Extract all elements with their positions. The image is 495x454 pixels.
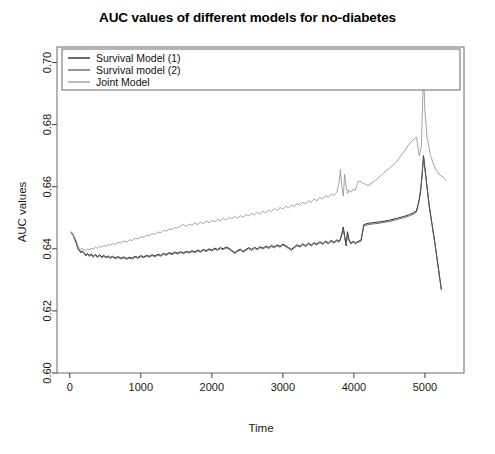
legend-item-label: Joint Model	[96, 76, 150, 88]
y-tick-label: 0.62	[41, 300, 53, 321]
y-tick-label: 0.60	[41, 362, 53, 383]
legend-item-label: Survival model (2)	[96, 64, 181, 76]
chart-legend[interactable]: Survival Model (1)Survival model (2)Join…	[62, 49, 460, 90]
series-lines	[71, 72, 446, 290]
x-tick-label: 3000	[271, 381, 295, 393]
series-line	[71, 157, 441, 290]
x-tick-label: 2000	[200, 381, 224, 393]
y-tick-label: 0.64	[41, 238, 53, 259]
y-axis-ticks: 0.600.620.640.660.680.70	[41, 52, 57, 384]
x-axis-title: Time	[248, 422, 273, 434]
x-tick-label: 5000	[413, 381, 437, 393]
plot-frame	[57, 47, 464, 373]
x-tick-label: 1000	[129, 381, 153, 393]
y-tick-label: 0.70	[41, 52, 53, 73]
y-tick-label: 0.68	[41, 114, 53, 135]
y-tick-label: 0.66	[41, 176, 53, 197]
x-axis-ticks: 010002000300040005000	[67, 373, 437, 393]
x-tick-label: 4000	[342, 381, 366, 393]
series-line	[71, 72, 446, 251]
x-tick-label: 0	[67, 381, 73, 393]
legend-item-label: Survival Model (1)	[96, 52, 181, 64]
y-axis-title: AUC values	[16, 181, 28, 242]
chart-root: AUC values of different models for no-di…	[0, 0, 495, 454]
plot-area: 0.600.620.640.660.680.70 010002000300040…	[0, 0, 495, 454]
